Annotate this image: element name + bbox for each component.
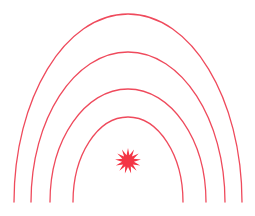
diagram-canvas [0,0,255,216]
canvas-background [0,0,255,216]
signal-wave-graphic [0,0,255,216]
